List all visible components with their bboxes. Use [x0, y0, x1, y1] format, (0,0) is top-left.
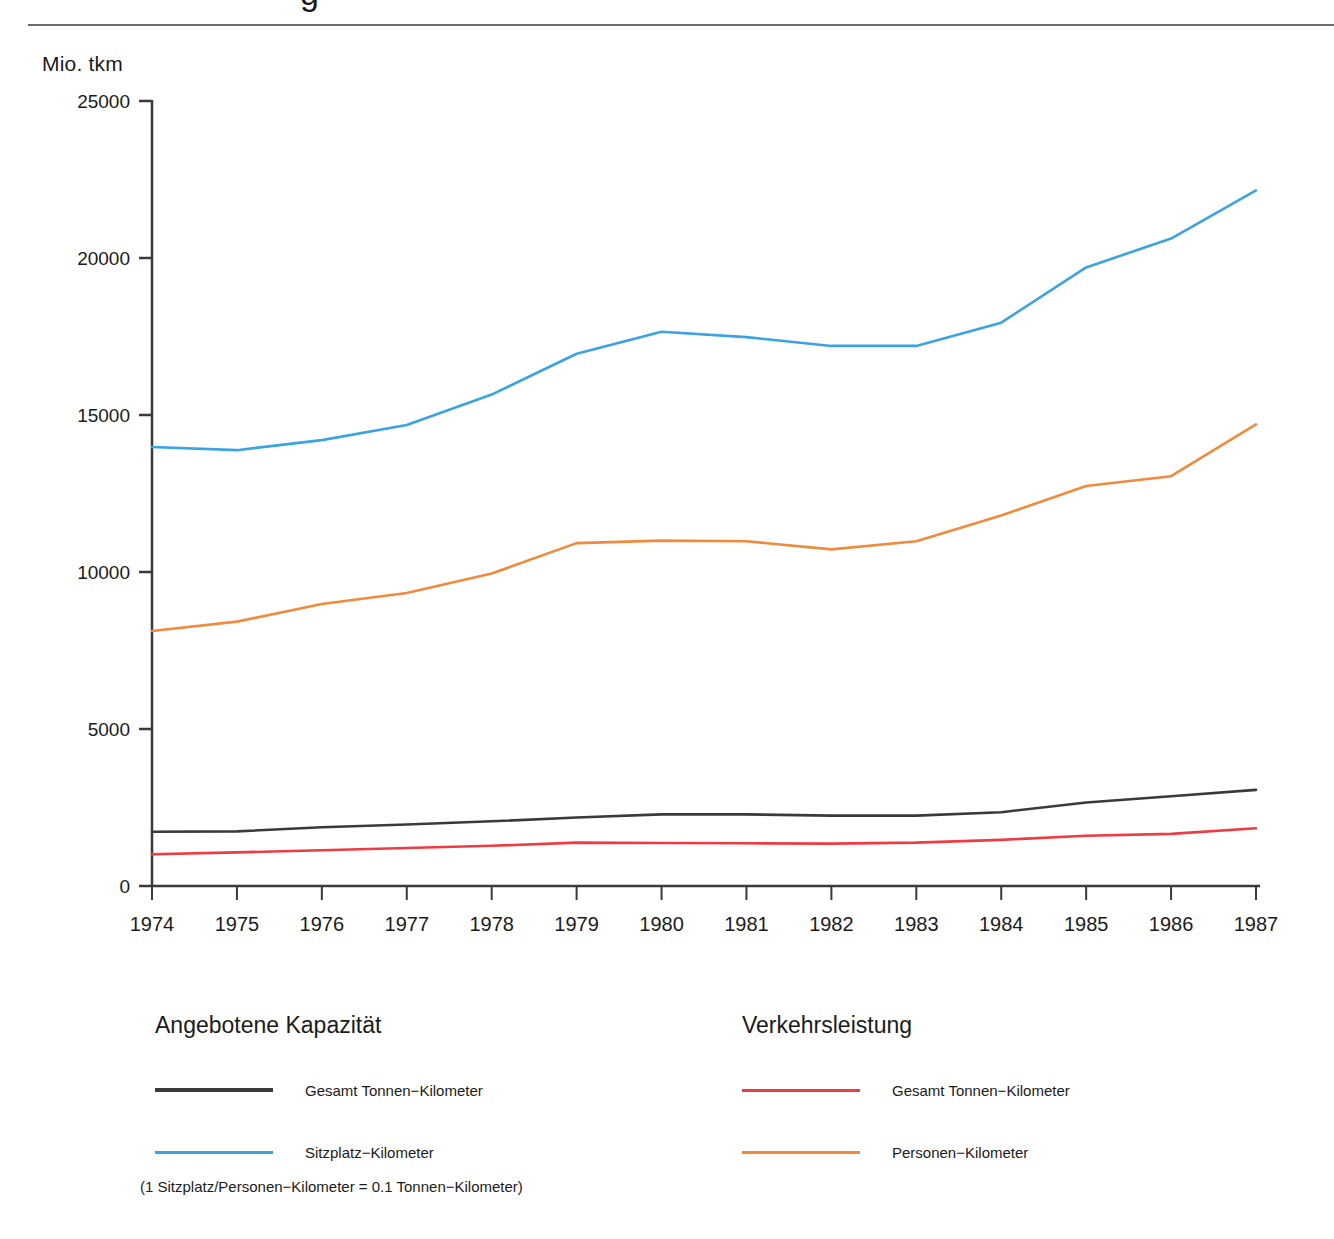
legend-line-swatch-red	[742, 1089, 860, 1092]
x-axis-tick-label: 1974	[130, 913, 175, 935]
x-axis-tick-label: 1979	[554, 913, 599, 935]
y-axis-tick-label: 10000	[77, 562, 130, 583]
chart-plot-area: 0500010000150002000025000 19741975197619…	[0, 0, 1334, 960]
legend-line-swatch-orange	[742, 1151, 860, 1154]
legend-item-sitzplatz-kilometer[interactable]: Sitzplatz−Kilometer	[155, 1135, 483, 1169]
legend-item-gesamt-tonnen-kilometer-leistung[interactable]: Gesamt Tonnen−Kilometer	[742, 1073, 1070, 1107]
x-axis-tick-label: 1976	[300, 913, 345, 935]
series-line-0	[152, 190, 1256, 450]
x-axis-tick-label: 1983	[894, 913, 939, 935]
y-axis-tick-label: 5000	[88, 719, 130, 740]
legend-line-swatch-blue	[155, 1151, 273, 1154]
series-line-1	[152, 424, 1256, 631]
legend-verkehrsleistung: Verkehrsleistung Gesamt Tonnen−Kilometer…	[742, 1012, 1070, 1197]
legend-item-personen-kilometer[interactable]: Personen−Kilometer	[742, 1135, 1070, 1169]
y-axis-tick-label: 20000	[77, 248, 130, 269]
y-axis-tick-label: 15000	[77, 405, 130, 426]
legend-footnote: (1 Sitzplatz/Personen−Kilometer = 0.1 To…	[140, 1178, 523, 1195]
y-axis-tick-label: 25000	[77, 91, 130, 112]
legend-angebotene-kapazitaet: Angebotene Kapazität Gesamt Tonnen−Kilom…	[155, 1012, 483, 1197]
legend-item-gesamt-tonnen-kilometer-kapazitaet[interactable]: Gesamt Tonnen−Kilometer	[155, 1073, 483, 1107]
series-layer	[152, 190, 1256, 854]
x-axis-tick-label: 1984	[979, 913, 1024, 935]
x-axis-tick-label: 1977	[385, 913, 430, 935]
legend-label: Gesamt Tonnen−Kilometer	[305, 1082, 483, 1099]
legend-right-title: Verkehrsleistung	[742, 1012, 1070, 1039]
series-line-3	[152, 828, 1256, 854]
x-axis-tick-label: 1986	[1149, 913, 1194, 935]
x-axis-tick-label: 1982	[809, 913, 854, 935]
legend-left-title: Angebotene Kapazität	[155, 1012, 483, 1039]
x-axis-tick-label: 1985	[1064, 913, 1109, 935]
x-axis-tick-label: 1978	[469, 913, 514, 935]
x-axis-tick-label: 1980	[639, 913, 684, 935]
x-tick-label-layer: 1974197519761977197819791980198119821983…	[130, 913, 1279, 935]
legend-label: Gesamt Tonnen−Kilometer	[892, 1082, 1070, 1099]
legend-line-swatch-black	[155, 1088, 273, 1092]
x-axis-tick-label: 1975	[215, 913, 260, 935]
line-chart: 0500010000150002000025000 19741975197619…	[0, 0, 1334, 960]
legend-label: Sitzplatz−Kilometer	[305, 1144, 434, 1161]
x-axis-tick-label: 1987	[1234, 913, 1279, 935]
axis-layer	[139, 100, 1260, 900]
x-axis-tick-label: 1981	[724, 913, 769, 935]
legend-label: Personen−Kilometer	[892, 1144, 1028, 1161]
y-axis-tick-label: 0	[119, 876, 130, 897]
series-line-2	[152, 790, 1256, 832]
y-tick-label-layer: 0500010000150002000025000	[77, 91, 130, 897]
